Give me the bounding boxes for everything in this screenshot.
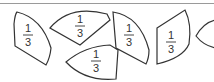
sector-piece-6-partial [196,20,214,48]
sector-piece-1: 1 3 [14,12,51,65]
numerator: 1 [93,48,99,60]
sector-piece-3: 1 3 [66,45,118,79]
denominator: 3 [25,36,31,48]
numerator: 1 [126,22,132,34]
sector-piece-4: 1 3 [113,12,149,64]
sector-piece-2: 1 3 [50,11,110,45]
numerator: 1 [77,13,83,25]
denominator: 3 [168,43,174,55]
fraction-sectors-diagram: 1 3 1 3 1 3 1 3 1 3 [0,0,214,82]
sector-piece-5: 1 3 [157,10,190,64]
denominator: 3 [77,27,83,39]
denominator: 3 [93,62,99,74]
denominator: 3 [126,36,132,48]
numerator: 1 [168,29,174,41]
numerator: 1 [25,22,31,34]
